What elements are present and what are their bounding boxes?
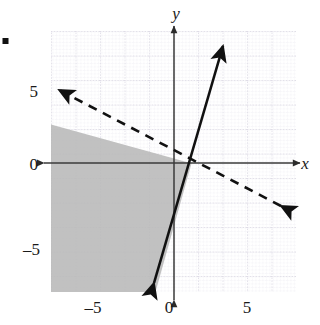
y-tick-label-neg5: –5 (22, 240, 40, 259)
x-tick-label-neg5: –5 (84, 298, 102, 317)
coordinate-plane-figure: 5 0 –5 –5 0 5 x y (0, 0, 320, 325)
y-tick-label-0: 0 (30, 155, 39, 174)
x-axis-name-label: x (300, 154, 309, 173)
x-tick-label-0: 0 (165, 298, 174, 317)
y-tick-label-5: 5 (30, 82, 39, 101)
bullet-marker-icon (3, 38, 9, 44)
graph-canvas: 5 0 –5 –5 0 5 x y (0, 0, 320, 325)
x-tick-label-5: 5 (243, 298, 252, 317)
y-axis-name-label: y (170, 4, 180, 23)
